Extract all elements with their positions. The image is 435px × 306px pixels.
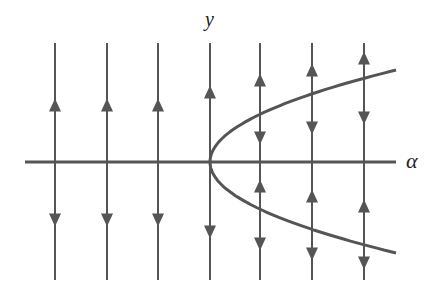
arrow-up-icon [306, 64, 318, 77]
arrow-up-icon [358, 200, 370, 213]
arrow-down-icon [49, 214, 61, 227]
arrow-down-icon [306, 122, 318, 135]
arrow-down-icon [152, 214, 164, 227]
arrow-down-icon [254, 132, 266, 145]
arrow-up-icon [254, 74, 266, 87]
arrow-down-icon [306, 248, 318, 261]
y-axis-label: y [205, 8, 214, 31]
arrow-down-icon [358, 112, 370, 125]
arrow-up-icon [49, 99, 61, 112]
arrow-up-icon [204, 86, 216, 99]
alpha-axis-label: α [406, 148, 418, 174]
arrow-up-icon [254, 180, 266, 193]
arrow-up-icon [358, 52, 370, 65]
arrow-down-icon [204, 226, 216, 239]
arrow-down-icon [101, 214, 113, 227]
bifurcation-diagram [0, 0, 435, 306]
arrow-up-icon [152, 99, 164, 112]
arrow-down-icon [254, 238, 266, 251]
arrow-down-icon [358, 257, 370, 270]
arrow-up-icon [306, 190, 318, 203]
arrow-up-icon [101, 99, 113, 112]
